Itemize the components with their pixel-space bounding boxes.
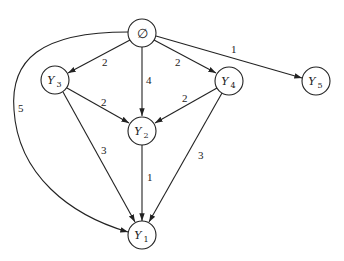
node-y4: Y 4 — [215, 67, 243, 95]
weight-y4-y2: 2 — [182, 92, 188, 104]
edge-y3-y2 — [67, 88, 129, 123]
weight-empty-y3: 2 — [102, 56, 108, 68]
node-subscript: 3 — [56, 80, 61, 89]
weight-empty-y2: 4 — [146, 74, 152, 86]
weight-y2-y1: 1 — [147, 171, 153, 183]
node-subscript: 1 — [143, 235, 148, 244]
edge-empty-y1 — [14, 32, 128, 232]
weight-empty-y4: 2 — [175, 56, 181, 68]
graph-canvas: 2 4 2 1 5 2 2 3 1 3 ∅ Y 3 Y 4 Y 5 Y 2 Y … — [0, 0, 344, 261]
node-subscript: 5 — [317, 81, 322, 90]
node-subscript: 2 — [143, 131, 148, 140]
weight-y3-y2: 2 — [101, 96, 107, 108]
node-y3: Y 3 — [41, 66, 69, 94]
node-empty-set: ∅ — [128, 19, 156, 47]
node-y1: Y 1 — [128, 221, 156, 249]
weight-y3-y1: 3 — [101, 144, 107, 156]
edge-empty-y4 — [154, 40, 216, 73]
weight-y4-y1: 3 — [198, 149, 204, 161]
node-y5: Y 5 — [302, 67, 330, 95]
edge-y4-y1 — [149, 93, 222, 222]
node-subscript: 4 — [230, 81, 235, 90]
weight-empty-y5: 1 — [231, 43, 237, 55]
node-y2: Y 2 — [128, 117, 156, 145]
weight-empty-y1: 5 — [18, 102, 24, 114]
edge-empty-y3 — [68, 40, 130, 73]
edge-y3-y1 — [63, 92, 135, 222]
node-label: ∅ — [137, 26, 148, 41]
